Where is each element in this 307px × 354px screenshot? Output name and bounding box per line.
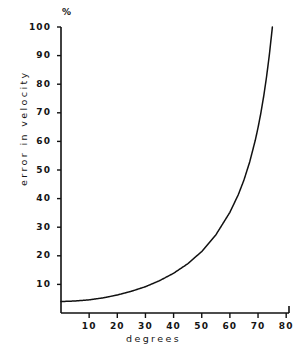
- y-tick-label: 70: [11, 108, 51, 117]
- chart-figure: % 102030405060708090100 1020304050607080…: [0, 0, 307, 354]
- y-tick-label: 10: [11, 280, 51, 289]
- y-tick-label: 90: [11, 51, 51, 60]
- y-tick-label: 30: [11, 223, 51, 232]
- y-tick-label: 40: [11, 194, 51, 203]
- y-tick-label: 50: [11, 166, 51, 175]
- y-tick-label: 80: [11, 80, 51, 89]
- percent-unit-label: %: [62, 8, 71, 17]
- y-tick-label: 20: [11, 251, 51, 260]
- y-tick-label: 100: [11, 23, 51, 32]
- x-tick-label: 80: [266, 322, 306, 331]
- y-tick-label: 60: [11, 137, 51, 146]
- x-axis-title: degrees: [0, 334, 307, 344]
